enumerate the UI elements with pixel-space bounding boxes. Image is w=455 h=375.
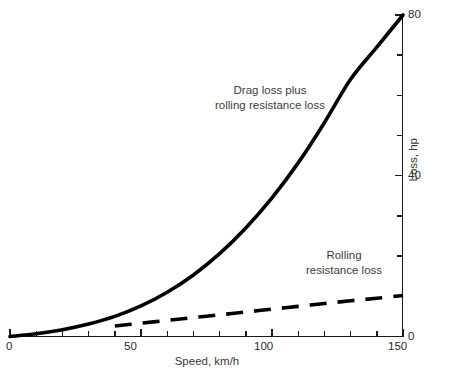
x-tick-label-50: 50 xyxy=(124,341,137,353)
chart-plot-area xyxy=(0,0,455,375)
curve-rolling-resistance xyxy=(115,296,403,327)
annotation-rolling-resistance: Rolling resistance loss xyxy=(288,248,400,278)
x-tick-label-0: 0 xyxy=(6,341,12,353)
chart-figure: 0 50 100 150 0 40 80 Speed, km/h Loss, h… xyxy=(0,0,455,375)
x-tick-label-150: 150 xyxy=(388,341,407,353)
x-tick-label-100: 100 xyxy=(254,341,273,353)
annotation-drag-plus-rolling: Drag loss plus rolling resistance loss xyxy=(190,83,350,113)
curve-drag-plus-rolling xyxy=(10,15,403,337)
y-tick-label-0: 0 xyxy=(408,331,414,343)
annotation-rolling-line-2: resistance loss xyxy=(288,263,400,278)
annotation-drag-line-2: rolling resistance loss xyxy=(190,98,350,113)
axis-lines xyxy=(10,15,403,337)
x-axis-title: Speed, km/h xyxy=(0,356,414,368)
annotation-drag-line-1: Drag loss plus xyxy=(190,83,350,98)
y-tick-label-80: 80 xyxy=(408,9,421,21)
annotation-rolling-line-1: Rolling xyxy=(288,248,400,263)
y-axis-title: Loss, hp xyxy=(408,138,420,181)
